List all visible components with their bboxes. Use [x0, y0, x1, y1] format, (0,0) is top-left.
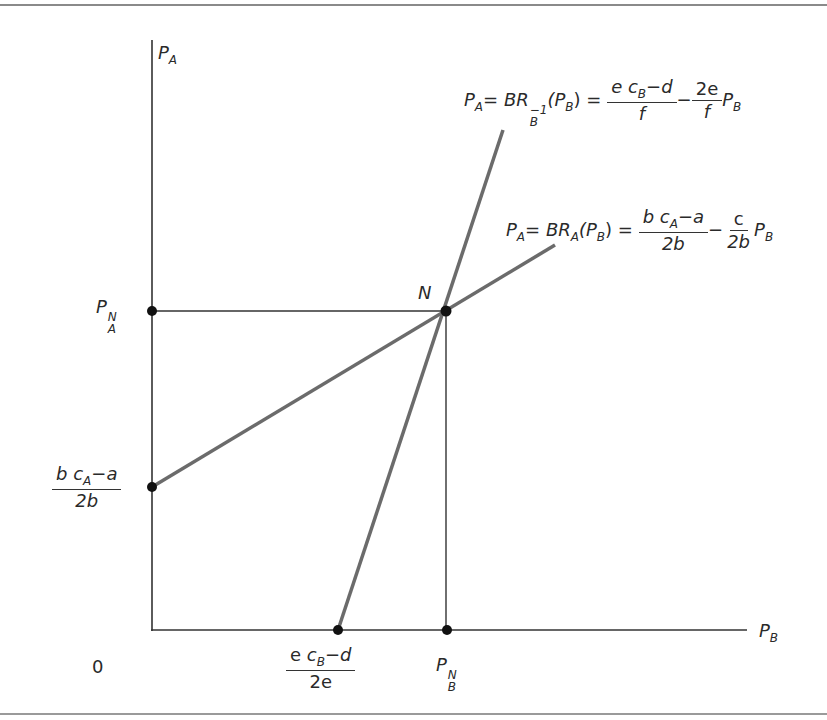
br-a-intercept-dot: [147, 482, 157, 492]
equilibrium-label: N: [418, 284, 431, 302]
br-a-curve: [152, 245, 555, 487]
br-b-inverse-equation: PA= BR−1B(PB) = e cB−d f − 2e f PB: [464, 78, 741, 128]
y-axis-label: PA: [158, 44, 177, 66]
br-a-intercept-label: b cA−a 2b: [52, 465, 121, 510]
equilibrium-dot: [441, 306, 452, 317]
pan-label: PNA: [96, 298, 117, 335]
x-axis-label: PB: [759, 622, 778, 644]
pbn-label: PNB: [436, 656, 457, 693]
br-b-inverse-curve: [338, 130, 503, 630]
pan-dot: [147, 306, 157, 316]
origin-label: 0: [92, 658, 103, 676]
pbn-dot: [442, 625, 452, 635]
br-b-intercept-dot: [333, 625, 343, 635]
br-b-intercept-label: e cB−d 2e: [286, 646, 355, 691]
br-a-equation: PA= BRA(PB) = b cA−a 2b − c 2b PB: [506, 208, 773, 253]
